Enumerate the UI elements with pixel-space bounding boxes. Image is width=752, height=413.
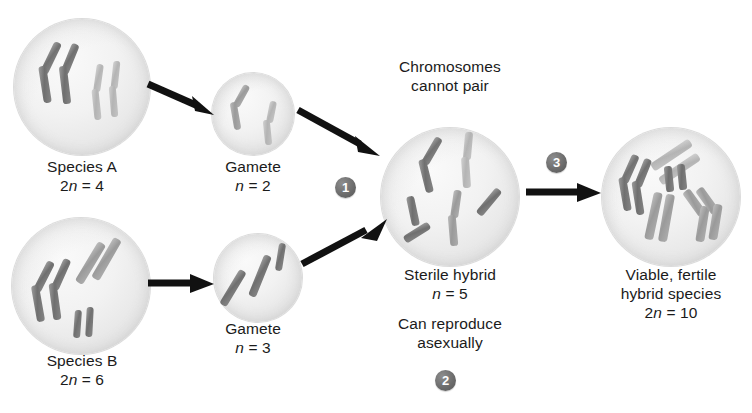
chromosome: [248, 254, 272, 298]
chromosome: [36, 41, 70, 103]
step-badge-1: 1: [335, 177, 356, 198]
chromosome: [85, 307, 94, 337]
chromosome: [687, 186, 723, 242]
chromosome: [650, 138, 693, 171]
step-badge-2: 2: [435, 370, 456, 391]
species-a-ploidy: 2n = 4: [60, 177, 104, 194]
annotation-asexual-reproduction: Can reproduce asexually: [372, 315, 528, 353]
chromosome: [614, 154, 644, 212]
sterile-hybrid-name: Sterile hybrid: [404, 266, 496, 283]
species-b-ploidy: 2n = 6: [60, 371, 104, 388]
cannot-pair-line-1: Chromosomes: [399, 58, 501, 75]
chromosome: [262, 101, 280, 145]
gamete-b-name: Gamete: [225, 320, 281, 337]
gamete-a-ploidy: n = 2: [235, 177, 270, 194]
viable-hybrid-ploidy: 2n = 10: [645, 304, 698, 321]
arrow-gamete-b-to-hybrid: [300, 212, 392, 270]
label-sterile-hybrid: Sterile hybrid n = 5: [372, 266, 528, 304]
chromosome: [415, 136, 447, 194]
arrow-species-b-to-gamete-b: [146, 272, 216, 298]
label-gamete-b: Gamete n = 3: [183, 320, 323, 358]
chromosome: [403, 196, 441, 244]
sterile-hybrid-ploidy: n = 5: [432, 285, 467, 302]
chromosome: [91, 237, 122, 281]
chromosome: [460, 132, 476, 188]
species-b-name: Species B: [47, 352, 118, 369]
chromosome: [664, 166, 675, 193]
cell-viable-hybrid: [602, 128, 740, 266]
arrow-species-a-to-gamete-a: [146, 78, 218, 120]
gamete-a-name: Gamete: [225, 158, 281, 175]
chromosome: [45, 258, 79, 320]
chromosome: [677, 164, 688, 191]
chromosome: [73, 310, 82, 338]
chromosome: [447, 190, 465, 246]
cell-gamete-b: [214, 234, 302, 322]
cannot-pair-line-2: cannot pair: [411, 77, 489, 94]
chromosome: [658, 194, 675, 243]
arrow-gamete-a-to-hybrid: [296, 106, 386, 164]
gamete-b-ploidy: n = 3: [235, 339, 270, 356]
figure-canvas: Species A 2n = 4 Species B 2n = 6: [0, 0, 752, 413]
chromosome: [54, 43, 88, 105]
annotation-cannot-pair: Chromosomes cannot pair: [368, 58, 532, 96]
label-species-b: Species B 2n = 6: [10, 352, 154, 390]
label-viable-hybrid: Viable, fertile hybrid species 2n = 10: [588, 266, 752, 323]
chromosome: [219, 269, 246, 307]
viable-hybrid-name-line1: Viable, fertile: [626, 266, 717, 283]
arrow-hybrid-to-viable-hybrid: [524, 180, 604, 206]
chromosome: [28, 260, 62, 322]
chromosome: [92, 64, 108, 120]
cell-gamete-a: [212, 73, 294, 155]
chromosome: [700, 184, 736, 240]
chromosome: [627, 158, 657, 216]
label-species-a: Species A 2n = 4: [10, 158, 154, 196]
viable-hybrid-name-line2: hybrid species: [621, 285, 721, 302]
asexual-line-2: asexually: [417, 334, 483, 351]
chromosome: [476, 187, 503, 217]
chromosome: [108, 61, 124, 117]
chromosome: [228, 84, 254, 130]
chromosome: [658, 152, 701, 185]
chromosome: [75, 241, 106, 285]
chromosome: [275, 243, 286, 272]
chromosome: [644, 192, 663, 241]
step-badge-3: 3: [546, 152, 567, 173]
cell-species-a: [14, 19, 150, 155]
asexual-line-1: Can reproduce: [398, 315, 502, 332]
cell-sterile-hybrid: [381, 128, 519, 266]
cell-species-b: [12, 218, 150, 354]
species-a-name: Species A: [47, 158, 117, 175]
